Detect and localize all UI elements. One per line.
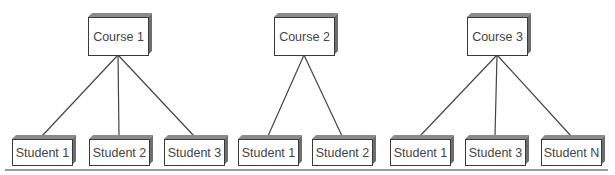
course-3-student-node-3-label: Student N (544, 146, 600, 160)
box-shadow-top (274, 13, 338, 17)
course-3-student-node-2: Student 3 (465, 135, 529, 166)
course-1-student-node-2: Student 2 (89, 135, 153, 166)
course-2-node: Course 2 (274, 13, 338, 56)
course-3-student-node-1: Student 1 (390, 135, 454, 166)
edge-course1-student3 (118, 55, 194, 136)
course-2-student-node-1: Student 1 (238, 135, 302, 166)
course-3-student-node-1-label: Student 1 (394, 146, 448, 160)
edge-course3-student1 (420, 55, 497, 136)
course-3-node-label: Course 3 (472, 30, 523, 44)
box-shadow-top (465, 135, 529, 139)
course-2-node-label: Course 2 (279, 30, 330, 44)
box-shadow-top (164, 135, 228, 139)
course-3-student-node-2-label: Student 3 (469, 146, 523, 160)
course-3-node: Course 3 (467, 13, 531, 56)
course-2-student-node-2-label: Student 2 (316, 146, 370, 160)
edge-course3-student2 (495, 55, 497, 136)
box-shadow-top (390, 135, 454, 139)
course-1-student-node-3-label: Student 3 (168, 146, 222, 160)
course-3-student-node-3: Student N (541, 135, 605, 166)
course-1-node: Course 1 (88, 13, 152, 56)
course-2-student-node-2: Student 2 (312, 135, 376, 166)
edge-course1-student2 (118, 55, 119, 136)
box-shadow-top (312, 135, 376, 139)
box-shadow-top (89, 135, 153, 139)
edge-course2-student1 (268, 55, 304, 136)
edge-course1-student1 (42, 55, 118, 136)
edge-course2-student2 (304, 55, 342, 136)
course-1-student-node-1: Student 1 (12, 135, 76, 166)
box-shadow-top (238, 135, 302, 139)
course-student-diagram: Course 1Student 1Student 2Student 3Cours… (0, 0, 615, 175)
box-shadow-top (541, 135, 605, 139)
course-1-student-node-2-label: Student 2 (93, 146, 147, 160)
course-2-student-node-1-label: Student 1 (242, 146, 296, 160)
course-1-student-node-3: Student 3 (164, 135, 228, 166)
nodes: Course 1Student 1Student 2Student 3Cours… (12, 13, 605, 166)
course-1-student-node-1-label: Student 1 (16, 146, 70, 160)
box-shadow-top (88, 13, 152, 17)
box-shadow-top (467, 13, 531, 17)
course-1-node-label: Course 1 (93, 30, 144, 44)
edges (42, 55, 571, 136)
edge-course3-student3 (497, 55, 571, 136)
box-shadow-top (12, 135, 76, 139)
